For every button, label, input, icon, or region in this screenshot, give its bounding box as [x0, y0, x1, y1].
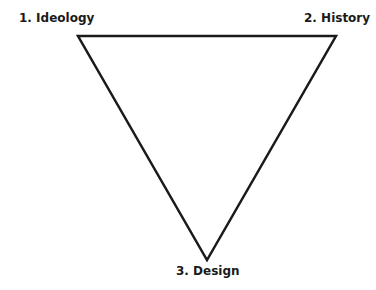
label-ideology: 1. Ideology [19, 11, 94, 25]
label-history: 2. History [304, 11, 370, 25]
triangle-diagram: 1. Ideology 2. History 3. Design [0, 0, 376, 290]
triangle-shape [0, 0, 376, 290]
label-design: 3. Design [176, 264, 240, 278]
